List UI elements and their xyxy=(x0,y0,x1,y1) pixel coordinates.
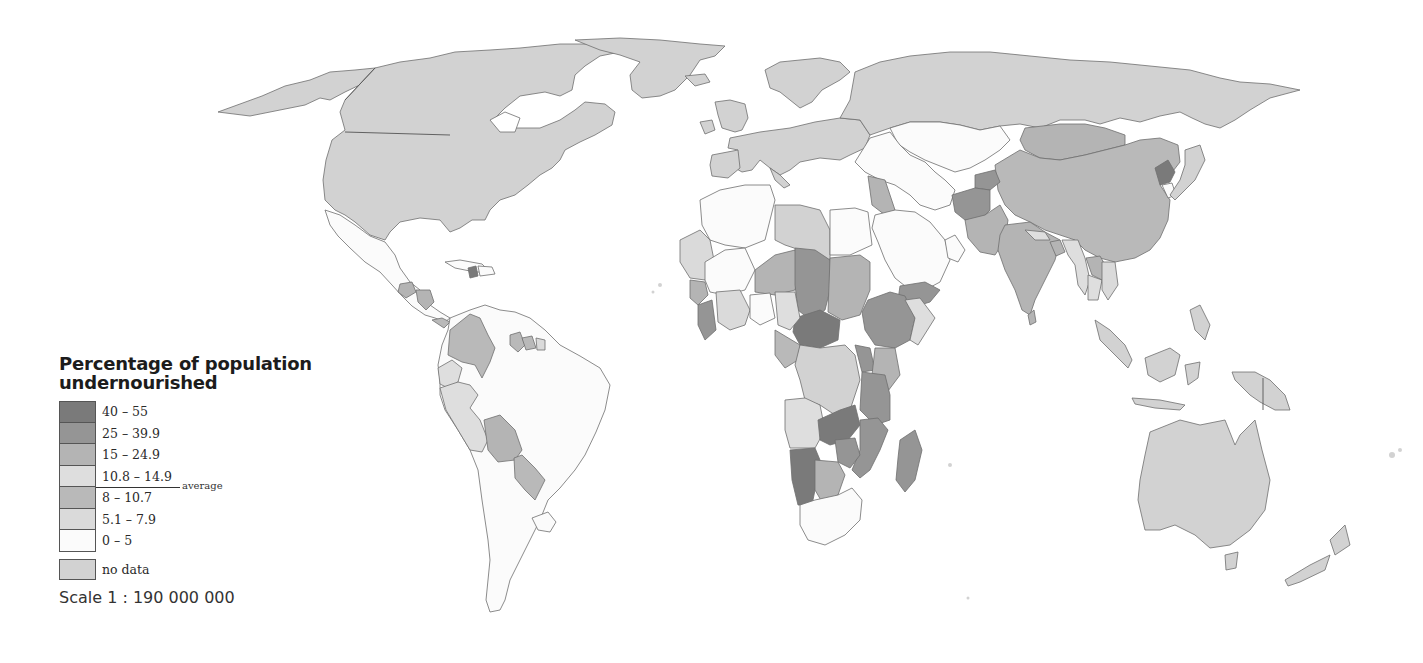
legend-swatch xyxy=(59,559,96,581)
legend-label: 40 – 55 xyxy=(102,404,148,419)
legend-label: 10.8 – 14.9 xyxy=(102,469,172,484)
legend-swatch xyxy=(59,530,96,552)
legend-swatch xyxy=(59,487,96,509)
legend-label: 5.1 – 7.9 xyxy=(102,512,156,527)
legend-item: 25 – 39.9 xyxy=(59,423,349,445)
legend-item: 5.1 – 7.9 xyxy=(59,509,349,531)
legend-label: 0 – 5 xyxy=(102,533,132,548)
europe xyxy=(685,58,870,188)
north-america xyxy=(218,38,725,240)
legend-label: no data xyxy=(102,562,149,577)
legend-title: Percentage of population undernourished xyxy=(59,354,349,392)
legend-item: 40 – 55 xyxy=(59,401,349,423)
map-scale: Scale 1 : 190 000 000 xyxy=(59,588,349,607)
legend-item: 15 – 24.9 xyxy=(59,444,349,466)
average-label: average xyxy=(182,480,223,491)
legend-label: 8 – 10.7 xyxy=(102,490,152,505)
average-divider xyxy=(96,487,180,488)
legend-label: 25 – 39.9 xyxy=(102,426,160,441)
legend-swatch xyxy=(59,423,96,445)
legend-item: 0 – 5 xyxy=(59,530,349,552)
map-legend: Percentage of population undernourished … xyxy=(59,354,349,607)
legend-label: 15 – 24.9 xyxy=(102,447,160,462)
legend-items: 40 – 55 25 – 39.9 15 – 24.9 10.8 – 14.9 … xyxy=(59,401,349,580)
legend-title-line2: undernourished xyxy=(59,373,349,392)
legend-swatch xyxy=(59,509,96,531)
legend-swatch xyxy=(59,466,96,488)
islands xyxy=(652,283,1403,600)
south-america xyxy=(438,305,610,612)
oceania xyxy=(1095,305,1350,586)
legend-swatch xyxy=(59,401,96,423)
legend-item-no-data: no data xyxy=(59,559,349,581)
legend-title-line1: Percentage of population xyxy=(59,354,349,373)
legend-swatch xyxy=(59,444,96,466)
